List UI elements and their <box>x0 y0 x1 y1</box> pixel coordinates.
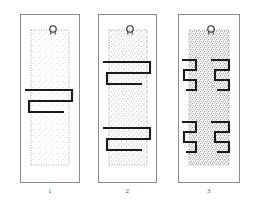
figure-three-panel-antenna-diagram: 1 <box>0 0 265 218</box>
panel-caption: 2 <box>98 187 157 195</box>
panel-artwork <box>20 14 80 183</box>
panel-artwork <box>178 14 240 183</box>
panel-1: 1 <box>20 14 80 183</box>
panel-caption: 3 <box>178 187 240 195</box>
panel-3: 3 <box>178 14 240 183</box>
panel-2: 2 <box>98 14 157 183</box>
substrate-region <box>109 30 147 165</box>
substrate-region <box>31 30 69 165</box>
panel-caption: 1 <box>20 187 80 195</box>
panel-artwork <box>98 14 157 183</box>
